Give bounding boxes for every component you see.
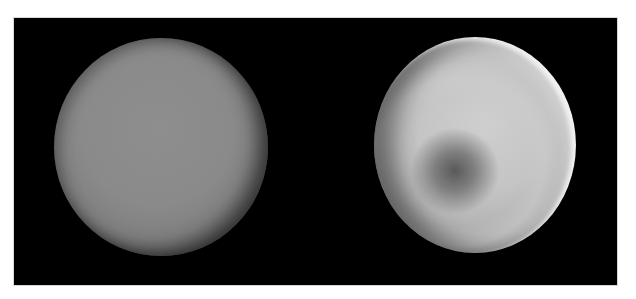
planet-left-image — [54, 38, 268, 256]
planet-right-image — [374, 37, 576, 253]
image-frame — [14, 18, 617, 285]
